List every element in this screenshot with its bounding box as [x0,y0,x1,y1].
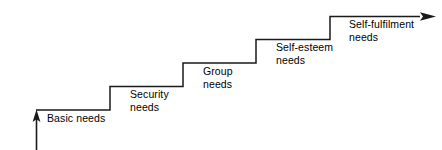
step-label-self-esteem-needs: Self-esteem needs [276,41,333,66]
step-label-group-needs: Group needs [203,65,233,90]
diagram-canvas: Basic needs Security needs Group needs S… [0,0,442,150]
step-label-basic-needs: Basic needs [47,112,105,125]
step-label-security-needs: Security needs [130,88,169,113]
right-arrow-head [420,12,436,21]
step-label-self-fulfilment-needs: Self-fulfilment needs [349,18,414,43]
